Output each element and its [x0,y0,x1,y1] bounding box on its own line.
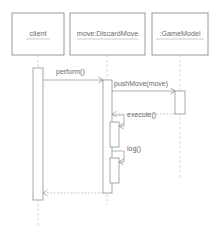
participant-label-client: client [30,29,47,38]
participant-move-discard-move[interactable]: move:DiscardMove [70,13,145,55]
participant-game-model[interactable]: :GameModel [152,13,208,55]
message-perform-return [43,190,103,196]
message-label-perform: perform() [56,68,85,76]
activation-bar-client [33,68,43,200]
activation-bar-log-self-call [110,158,119,183]
message-label-pushmove: pushMove(move) [114,80,168,88]
message-perform[interactable]: perform() [43,68,103,83]
uml-sequence-diagram: client move:DiscardMove :GameModel perfo… [0,0,220,233]
participant-label-move-discard-move: move:DiscardMove [77,29,139,38]
participant-label-game-model: :GameModel [159,29,201,38]
activation-bars-group [33,68,185,200]
diagram-canvas: client move:DiscardMove :GameModel perfo… [0,0,220,233]
message-pushmove[interactable]: pushMove(move) [112,80,175,94]
arrowhead-perform-return [43,190,48,196]
activation-bar-execute-self-call [110,122,119,147]
participant-client[interactable]: client [12,13,64,55]
message-label-execute: execute() [127,111,156,119]
message-label-log: log() [127,145,141,153]
activation-bar-game-model [175,91,185,114]
